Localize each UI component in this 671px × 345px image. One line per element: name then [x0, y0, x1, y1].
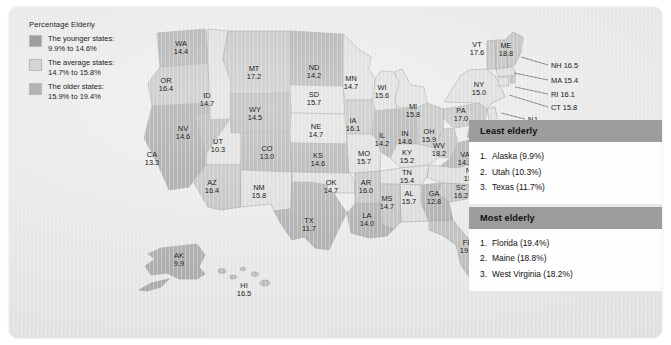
state-label-ak[interactable]: AK9.9: [174, 252, 184, 269]
state-label-id[interactable]: ID14.7: [200, 92, 214, 109]
state-label-ok[interactable]: OK14.7: [324, 179, 338, 196]
state-label-wi[interactable]: WI15.6: [375, 84, 389, 101]
state-label-ms[interactable]: MS14.7: [380, 195, 394, 212]
state-value: 14.0: [360, 220, 374, 228]
state-value: 10.3: [211, 146, 225, 154]
callout-item-number: 1.: [480, 236, 492, 252]
state-label-mn[interactable]: MN14.7: [344, 75, 358, 92]
state-value: 17.6: [470, 49, 484, 57]
state-shape-mt[interactable]: [223, 31, 290, 94]
state-label-pa[interactable]: PA17.0: [454, 107, 468, 124]
leader-line-nh: [521, 57, 548, 65]
state-value: 18.2: [432, 150, 446, 158]
state-shape-ri[interactable]: [510, 76, 515, 83]
state-label-ia[interactable]: IA16.1: [346, 117, 360, 134]
state-value: 16.0: [359, 187, 373, 195]
legend-label-older-states: The older states:15.9% to 19.4%: [48, 82, 104, 101]
map-legend: Percentage Elderly The younger states:9.…: [29, 20, 161, 107]
leader-line-nj: [501, 113, 525, 119]
state-label-sd[interactable]: SD15.7: [307, 91, 321, 108]
state-value: 17.2: [247, 73, 261, 81]
state-value: 15.2: [400, 157, 414, 165]
legend-item-older-states[interactable]: The older states:15.9% to 19.4%: [29, 82, 161, 101]
state-value: 13.3: [145, 159, 159, 167]
callout-list-item: 2.Utah (10.3%): [480, 165, 651, 181]
state-value: 14.6: [176, 133, 190, 141]
state-value: 14.2: [307, 72, 321, 80]
leader-label-ma[interactable]: MA 15.4: [551, 77, 578, 85]
state-label-vt[interactable]: VT17.6: [470, 41, 484, 58]
state-label-mt[interactable]: MT17.2: [247, 65, 261, 82]
callout-list-item: 1.Florida (19.4%): [480, 236, 651, 252]
state-label-ks[interactable]: KS14.6: [311, 152, 325, 169]
state-label-la[interactable]: LA14.0: [360, 212, 374, 229]
state-label-wv[interactable]: WV18.2: [432, 142, 446, 159]
state-value: 15.7: [307, 99, 321, 107]
state-label-mo[interactable]: MO15.7: [357, 150, 371, 167]
state-shape-ct[interactable]: [498, 77, 509, 86]
callout-heading: Most elderly: [469, 207, 662, 229]
leader-label-ri[interactable]: RI 16.1: [551, 91, 575, 99]
callout-item-text: Alaska (9.9%): [492, 149, 544, 165]
legend-label-younger-states: The younger states:9.9% to 14.6%: [48, 34, 114, 53]
state-label-nm[interactable]: NM15.8: [252, 184, 266, 201]
state-shape-ma[interactable]: [496, 67, 516, 77]
state-value: 9.9: [174, 260, 184, 268]
leader-line-ri: [515, 87, 548, 94]
legend-title: Percentage Elderly: [29, 20, 161, 29]
elderly-population-choropleth-figure: WA14.4OR16.4ID14.7MT17.2ND14.2SD15.7WY14…: [0, 0, 671, 345]
callout-list-item: 2.Maine (18.8%): [480, 251, 651, 267]
state-label-ut[interactable]: UT10.3: [211, 138, 225, 155]
state-value: 18.8: [499, 50, 513, 58]
callout-body: 1.Alaska (9.9%)2.Utah (10.3%)3.Texas (11…: [469, 142, 662, 204]
state-label-tx[interactable]: TX11.7: [302, 217, 316, 234]
leader-label-ct[interactable]: CT 15.8: [551, 104, 577, 112]
state-value: 16.4: [205, 187, 219, 195]
legend-item-average-states[interactable]: The average states:14.7% to 15.8%: [29, 58, 161, 77]
state-label-il[interactable]: IL14.2: [375, 132, 389, 149]
legend-label-average-states: The average states:14.7% to 15.8%: [48, 58, 114, 77]
state-label-in[interactable]: IN14.6: [398, 130, 412, 147]
state-label-ca[interactable]: CA13.3: [145, 151, 159, 168]
callout-item-text: Florida (19.4%): [492, 236, 549, 252]
state-label-tn[interactable]: TN15.4: [400, 169, 414, 186]
state-label-nv[interactable]: NV14.6: [176, 125, 190, 142]
state-label-wa[interactable]: WA14.4: [174, 40, 188, 57]
state-label-az[interactable]: AZ16.4: [205, 179, 219, 196]
legend-label-line1: The older states:: [48, 82, 104, 92]
state-label-ar[interactable]: AR16.0: [359, 179, 373, 196]
legend-label-line2: 9.9% to 14.6%: [48, 44, 114, 54]
callout-item-number: 3.: [480, 267, 492, 283]
state-label-wy[interactable]: WY14.5: [248, 106, 262, 123]
state-shape-nm[interactable]: [241, 170, 292, 211]
state-label-nd[interactable]: ND14.2: [307, 64, 321, 81]
state-label-sc[interactable]: SC16.2: [454, 184, 468, 201]
state-value: 15.4: [400, 177, 414, 185]
ranking-callouts: Least elderly1.Alaska (9.9%)2.Utah (10.3…: [469, 120, 662, 291]
state-value: 14.7: [309, 131, 323, 139]
state-value: 15.8: [406, 111, 420, 119]
state-value: 13.0: [260, 153, 274, 161]
state-value: 14.7: [380, 203, 394, 211]
state-shape-ak-aleutians: [139, 279, 169, 291]
state-value: 14.7: [324, 187, 338, 195]
leader-label-nh[interactable]: NH 16.5: [551, 62, 578, 70]
callout-least-elderly: Least elderly1.Alaska (9.9%)2.Utah (10.3…: [469, 120, 662, 204]
state-label-ny[interactable]: NY15.0: [472, 81, 486, 98]
state-label-co[interactable]: CO13.0: [260, 145, 274, 162]
state-label-hi[interactable]: HI16.5: [237, 282, 251, 299]
state-label-me[interactable]: ME18.8: [499, 42, 513, 59]
state-shape-vt[interactable]: [487, 40, 496, 69]
callout-item-number: 1.: [480, 149, 492, 165]
state-label-ga[interactable]: GA12.8: [427, 190, 441, 207]
state-label-mi[interactable]: MI15.8: [406, 103, 420, 120]
state-value: 15.7: [357, 158, 371, 166]
state-label-ky[interactable]: KY15.2: [400, 149, 414, 166]
state-label-al[interactable]: AL15.7: [402, 190, 416, 207]
legend-item-younger-states[interactable]: The younger states:9.9% to 14.6%: [29, 34, 161, 53]
state-value: 16.5: [237, 290, 251, 298]
state-label-ne[interactable]: NE14.7: [309, 123, 323, 140]
legend-label-line2: 14.7% to 15.8%: [48, 68, 114, 78]
state-value: 14.7: [200, 100, 214, 108]
state-value: 15.7: [402, 198, 416, 206]
